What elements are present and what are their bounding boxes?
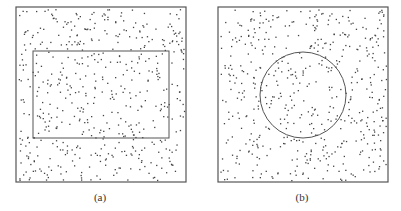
panel-b-label: (b) xyxy=(282,191,322,203)
inner-circle xyxy=(260,52,346,138)
inner-rectangle xyxy=(33,51,169,138)
panel-a-label: (a) xyxy=(80,191,120,203)
random-points xyxy=(220,9,387,181)
outer-box xyxy=(218,7,388,182)
random-points xyxy=(19,9,186,181)
panel-b xyxy=(218,7,388,182)
panel-a xyxy=(16,7,186,182)
figure-canvas xyxy=(0,0,401,211)
outer-box xyxy=(16,7,186,182)
